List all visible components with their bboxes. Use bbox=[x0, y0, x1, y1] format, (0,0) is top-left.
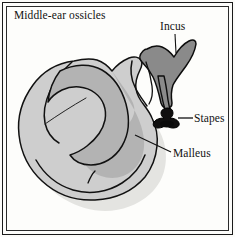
figure-root: Middle-ear ossicles Incus Stapes Malleus bbox=[0, 0, 235, 237]
label-incus: Incus bbox=[160, 20, 185, 32]
incus-leader-line bbox=[175, 34, 176, 53]
label-malleus: Malleus bbox=[173, 147, 211, 159]
stapes-footplate bbox=[160, 121, 174, 128]
figure-title: Middle-ear ossicles bbox=[14, 9, 106, 21]
label-stapes: Stapes bbox=[194, 112, 225, 124]
